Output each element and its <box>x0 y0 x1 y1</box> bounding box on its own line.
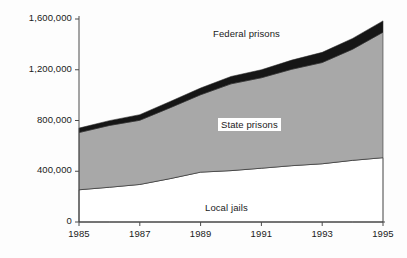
x-axis-tick-label: 1987 <box>117 228 163 239</box>
annotation-federal-prisons: Federal prisons <box>213 28 280 39</box>
x-axis-tick-label: 1989 <box>178 228 224 239</box>
annotation-local-jails: Local jails <box>205 202 248 213</box>
chart-figure: No. in custody 0400,000800,0001,200,0001… <box>0 0 407 258</box>
x-axis-tick-label: 1995 <box>360 228 406 239</box>
x-axis-tick-label: 1993 <box>299 228 345 239</box>
x-axis-tick-label: 1991 <box>238 228 284 239</box>
plot-area <box>0 0 407 258</box>
annotation-state-prisons: State prisons <box>218 118 281 131</box>
x-axis-tick-label: 1985 <box>56 228 102 239</box>
